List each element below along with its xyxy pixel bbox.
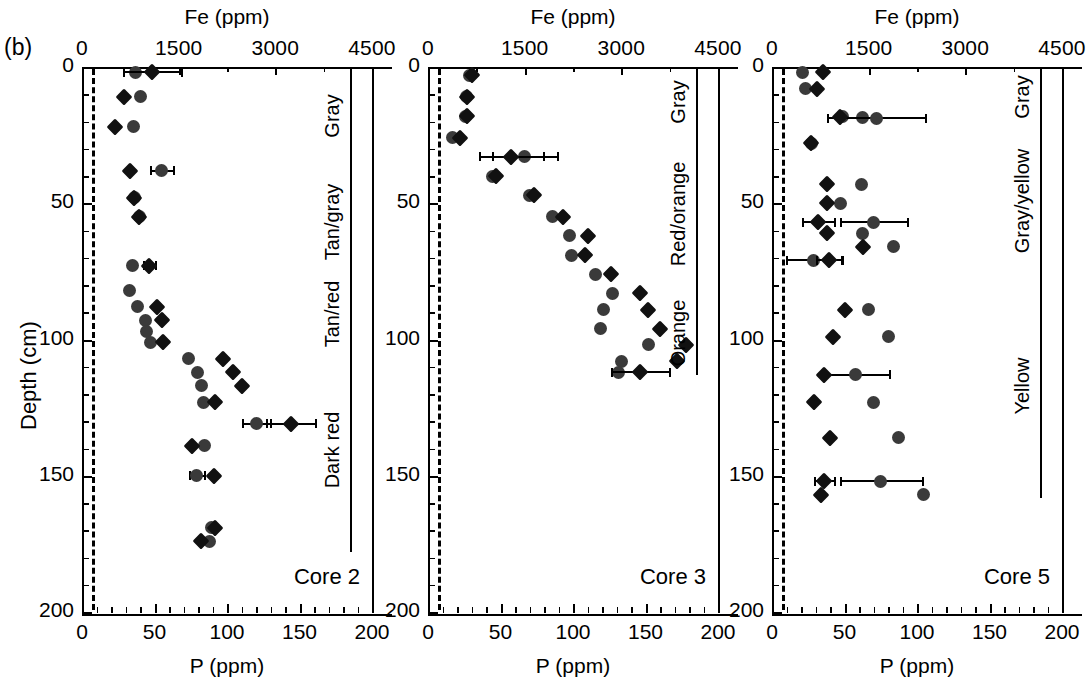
error-cap-p: [842, 256, 844, 265]
right-axis-line: [1062, 67, 1064, 612]
bottom-axis-title: P (ppm): [857, 654, 977, 678]
data-point-fe: [887, 240, 900, 253]
bottom-major-tick: [917, 604, 919, 613]
bottom-minor-tick: [888, 607, 890, 613]
error-cap-fe: [786, 256, 788, 265]
data-point-fe: [849, 368, 862, 381]
error-cap-p: [816, 256, 818, 265]
bottom-major-tick: [1062, 604, 1064, 613]
core-label: Core 5: [942, 564, 1050, 590]
bottom-minor-tick: [859, 607, 861, 613]
top-minor-tick: [869, 67, 871, 72]
bottom-tick-label: 0: [732, 620, 812, 644]
figure-panel-b: (b) Depth (cm) 0150030004500Fe (ppm)0501…: [0, 0, 1090, 683]
y-minor-tick: [772, 258, 779, 260]
plot-frame: [772, 67, 1082, 616]
detection-limit-line: [782, 69, 785, 610]
top-minor-tick: [1014, 67, 1016, 72]
y-minor-tick: [772, 94, 779, 96]
data-point-fe: [862, 303, 875, 316]
y-minor-tick: [772, 394, 779, 396]
bottom-minor-tick: [961, 607, 963, 613]
y-major-tick: [772, 203, 782, 205]
y-minor-tick: [772, 231, 779, 233]
data-point-fe: [855, 178, 868, 191]
bottom-minor-tick: [816, 607, 818, 613]
y-minor-tick: [772, 285, 779, 287]
error-cap-fe: [922, 477, 924, 486]
error-cap-p: [834, 477, 836, 486]
bottom-minor-tick: [903, 607, 905, 613]
top-minor-tick: [917, 67, 919, 72]
top-major-tick: [1062, 67, 1064, 75]
error-cap-fe: [925, 114, 927, 123]
data-point-fe: [870, 112, 883, 125]
bottom-minor-tick: [946, 607, 948, 613]
bottom-tick-label: 200: [1022, 620, 1090, 644]
bottom-minor-tick: [874, 607, 876, 613]
y-minor-tick: [772, 149, 779, 151]
bottom-minor-tick: [1048, 607, 1050, 613]
bottom-tick-label: 100: [877, 620, 957, 644]
y-tick-label: 100: [694, 326, 764, 350]
error-cap-p: [834, 218, 836, 227]
y-major-tick: [772, 340, 782, 342]
error-cap-p: [802, 218, 804, 227]
bottom-tick-label: 150: [950, 620, 1030, 644]
bottom-minor-tick: [830, 607, 832, 613]
data-point-fe: [796, 66, 809, 79]
y-major-tick: [772, 612, 782, 614]
y-minor-tick: [772, 449, 779, 451]
y-minor-tick: [772, 530, 779, 532]
y-tick-label: 200: [694, 598, 764, 622]
top-tick-label: 1500: [829, 36, 909, 60]
y-minor-tick: [772, 367, 779, 369]
y-minor-tick: [772, 312, 779, 314]
zone-bracket: [1040, 274, 1042, 497]
data-point-fe: [834, 197, 847, 210]
error-cap-fe: [889, 370, 891, 379]
y-minor-tick: [772, 176, 779, 178]
y-minor-tick: [772, 122, 779, 124]
error-cap-fe: [907, 218, 909, 227]
error-cap-fe: [840, 477, 842, 486]
data-point-fe: [867, 396, 880, 409]
zone-label: Gray/yellow: [1011, 148, 1034, 252]
top-minor-tick: [965, 67, 967, 72]
panel-core-5: 0150030004500Fe (ppm)050100150200P (ppm)…: [0, 0, 1090, 683]
bottom-tick-label: 50: [805, 620, 885, 644]
top-axis-title: Fe (ppm): [857, 5, 977, 29]
bottom-minor-tick: [1004, 607, 1006, 613]
y-minor-tick: [772, 503, 779, 505]
zone-bracket: [1040, 67, 1042, 127]
y-tick-label: 50: [694, 189, 764, 213]
bottom-minor-tick: [932, 607, 934, 613]
top-tick-label: 3000: [925, 36, 1005, 60]
bottom-minor-tick: [1019, 607, 1021, 613]
bottom-minor-tick: [975, 607, 977, 613]
bottom-minor-tick: [801, 607, 803, 613]
y-tick-label: 0: [694, 53, 764, 77]
error-cap-fe: [840, 218, 842, 227]
error-cap-fe: [827, 114, 829, 123]
zone-bracket: [1040, 127, 1042, 274]
data-point-fe: [882, 330, 895, 343]
top-tick-label: 4500: [1022, 36, 1090, 60]
y-tick-label: 150: [694, 462, 764, 486]
y-major-tick: [772, 476, 782, 478]
y-major-tick: [772, 67, 782, 69]
y-minor-tick: [772, 558, 779, 560]
y-minor-tick: [772, 421, 779, 423]
y-minor-tick: [772, 585, 779, 587]
zone-label: Gray: [1011, 75, 1034, 118]
bottom-minor-tick: [787, 607, 789, 613]
bottom-major-tick: [990, 604, 992, 613]
bottom-major-tick: [845, 604, 847, 613]
bottom-minor-tick: [1033, 607, 1035, 613]
zone-label: Yellow: [1011, 357, 1034, 414]
data-point-fe: [892, 431, 905, 444]
